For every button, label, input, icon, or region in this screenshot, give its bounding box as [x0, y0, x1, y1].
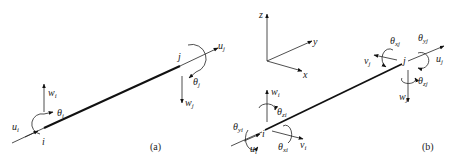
y-axis-label: y	[312, 36, 318, 47]
beam-a	[44, 66, 180, 128]
z-axis-label: z	[258, 9, 263, 20]
caption-a: (a)	[150, 141, 161, 153]
theta-i-label-a: θi	[57, 107, 64, 120]
u-i-arrow-b	[244, 134, 260, 141]
v-j-arrow-b	[374, 55, 397, 60]
u-j-arrow-a	[180, 48, 218, 66]
v-j-label-b: vj	[364, 55, 370, 68]
figure-a: i j ui wi θi uj wj θj (a)	[12, 40, 225, 153]
u-j-label-a: uj	[218, 40, 225, 53]
w-j-label-b: wj	[399, 91, 408, 104]
u-j-label-b: uj	[436, 53, 443, 66]
x-axis-arrow	[267, 61, 302, 71]
node-i-label-a: i	[42, 136, 45, 147]
beam-b	[265, 64, 402, 130]
diagram-canvas: i j ui wi θi uj wj θj (a) z y x i wi θzi…	[0, 0, 449, 166]
theta-yj-label: θyj	[418, 32, 428, 45]
theta-xi-label: θxi	[278, 141, 288, 154]
theta-zj-arrow	[402, 78, 416, 83]
theta-i-arrow-a	[32, 112, 53, 134]
theta-yi-label: θyi	[233, 121, 243, 134]
theta-j-label-a: θj	[193, 76, 200, 89]
theta-zj-label: θzj	[418, 75, 428, 88]
w-j-label-a: wj	[185, 97, 194, 110]
u-i-label-b: ui	[250, 143, 257, 156]
w-i-label-a: wi	[48, 87, 57, 100]
node-j-label-a: j	[176, 51, 181, 62]
x-axis-label: x	[302, 69, 308, 80]
node-i-label-b: i	[262, 128, 265, 139]
beam-element-diagram: i j ui wi θi uj wj θj (a) z y x i wi θzi…	[0, 0, 449, 166]
v-i-label-b: vi	[300, 139, 306, 152]
theta-xj-label: θxj	[390, 35, 400, 48]
u-i-label-a: ui	[12, 121, 19, 134]
w-i-label-b: wi	[271, 86, 280, 99]
theta-zi-label: θzi	[277, 106, 287, 119]
v-i-arrow-b	[272, 131, 303, 139]
caption-b: (b)	[422, 141, 434, 153]
figure-b: z y x i wi θzi θxi vi θyi ui j θxj θyj v…	[231, 9, 444, 156]
y-axis-arrow	[267, 41, 312, 61]
